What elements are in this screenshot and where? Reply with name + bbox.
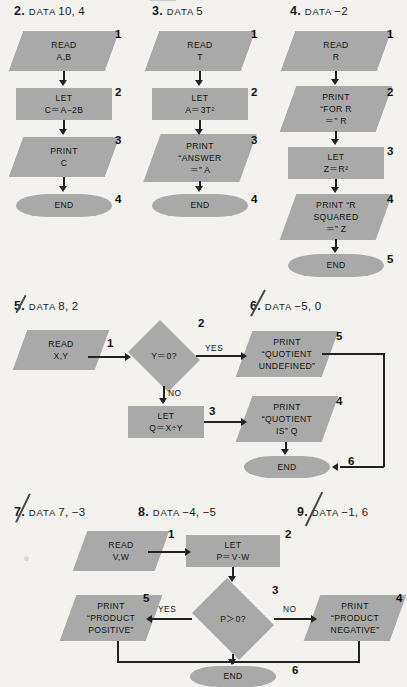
node-line: IS” Q (276, 425, 298, 437)
problem-keyword: DATA (25, 6, 59, 17)
chart-e-node-5-print-positive: PRINT “PRODUCT POSITIVE” (68, 595, 154, 641)
node-line: ＝” A (190, 164, 211, 176)
chart-e-label-yes: YES (158, 604, 176, 614)
chart-c-step-3: 3 (387, 145, 393, 157)
node-line: X,Y (54, 350, 69, 362)
node-line: Z＝R² (324, 163, 349, 175)
chart-d-node-5-print-undefined: PRINT “QUOTIENT UNDEFINED” (244, 331, 330, 377)
chart-e-arrow-end (228, 659, 236, 665)
chart-e-merge-right-horz (232, 661, 360, 663)
paper-smudge-left (24, 556, 29, 561)
chart-e-step-1: 1 (168, 528, 174, 540)
problem-value: 8, 2 (58, 300, 78, 312)
problem-keyword: DATA (25, 301, 59, 312)
chart-e-step-3: 3 (272, 584, 278, 596)
chart-e-merge-right-vert (358, 641, 360, 663)
chart-b-node-2-let: LET A＝3T² (152, 88, 248, 120)
node-line: PRINT (341, 600, 369, 612)
node-line: P＝V·W (216, 551, 249, 563)
chart-e-connector-3-4-no (274, 618, 314, 620)
node-line: C＝A−2B (45, 104, 84, 116)
chart-e-connector-1-2 (148, 551, 188, 553)
chart-b-node-4-end: END (152, 194, 248, 217)
problem-number: 9. (297, 505, 308, 519)
node-line: NEGATIVE” (331, 624, 380, 636)
problem-header-2: 2.DATA10, 4 (14, 4, 85, 18)
problem-value: 5 (196, 5, 203, 17)
chart-d-step-4: 4 (336, 395, 342, 407)
chart-d-node-3-let: LET Q＝X÷Y (128, 406, 204, 438)
chart-e-node-6-end: END (190, 666, 276, 687)
chart-e-connector-3-5-yes (152, 618, 192, 620)
chart-d-step-1: 1 (107, 337, 113, 349)
node-line: A,B (57, 51, 72, 63)
chart-d-node-4-print-quotient: PRINT “QUOTIENT IS” Q (244, 396, 330, 442)
chart-e-merge-left-horz (117, 661, 233, 663)
chart-e-label-no: NO (283, 604, 297, 614)
chart-e-node-4-print-negative: PRINT “PRODUCT NEGATIVE” (312, 595, 398, 641)
problem-number: 8. (138, 505, 149, 519)
chart-b-arrow-2-3 (195, 129, 203, 135)
chart-e-step-5: 5 (143, 592, 149, 604)
problem-value: −4, −5 (182, 506, 216, 518)
node-line: Y＝0? (151, 350, 177, 362)
problem-keyword: DATA (25, 507, 59, 518)
node-line: LET (192, 92, 209, 104)
node-line: READ (108, 539, 133, 551)
node-line: PRINT (322, 91, 350, 103)
chart-d-arrow-2-3 (159, 398, 167, 404)
node-line: READ (187, 39, 212, 51)
chart-c-arrow-1-2 (331, 79, 339, 85)
chart-d-node-2-decision: Y＝0? (124, 324, 204, 388)
problem-keyword: DATA (149, 507, 183, 518)
chart-e-arrow-2-3 (228, 576, 236, 582)
node-line: ＝” R (325, 115, 347, 127)
chart-a-node-4-end: END (16, 194, 112, 217)
chart-d-label-no: NO (168, 388, 182, 398)
node-line: END (54, 199, 73, 211)
problem-keyword: DATA (301, 6, 335, 17)
node-line: END (190, 199, 209, 211)
node-line: ＝” Z (326, 223, 347, 235)
node-line: LET (328, 151, 345, 163)
chart-a-arrow-1-2 (59, 80, 67, 86)
chart-b-step-1: 1 (251, 28, 257, 40)
chart-a-step-4: 4 (115, 193, 121, 205)
chart-c-arrow-3-4 (331, 187, 339, 193)
chart-b-node-1-read: READ T (152, 31, 248, 71)
chart-e-arrow-1-2 (185, 548, 191, 556)
chart-b-step-4: 4 (251, 193, 257, 205)
chart-c-step-4: 4 (387, 193, 393, 205)
node-line: LET (56, 92, 73, 104)
problem-number: 2. (14, 4, 25, 18)
node-line: END (326, 259, 345, 271)
chart-d-step-6: 6 (348, 455, 354, 467)
chart-e-merge-left-vert (117, 641, 119, 663)
problem-header-4: 4.DATA−2 (290, 4, 348, 18)
chart-d-step-5: 5 (336, 330, 342, 342)
node-line: SQUARED (314, 211, 359, 223)
chart-e-node-3-decision: P＞0? (186, 584, 280, 654)
node-line: R (333, 51, 340, 63)
chart-d-arrow-1-2 (125, 353, 131, 361)
node-line: C (61, 157, 68, 169)
chart-c-node-2-print: PRINT “FOR R ＝” R (288, 86, 384, 132)
node-line: “PRODUCT (87, 612, 135, 624)
node-line: PRINT (186, 140, 214, 152)
chart-d-connector-3-4 (204, 421, 244, 423)
chart-d-node-1-read: READ X,Y (20, 330, 102, 370)
node-line: READ (48, 338, 73, 350)
chart-d-connector-2-5-yes (196, 355, 244, 357)
problem-header-8: 8.DATA−4, −5 (138, 505, 216, 519)
chart-e-arrow-3-4 (311, 615, 317, 623)
chart-a-node-2-let: LET C＝A−2B (16, 88, 112, 120)
problem-keyword: DATA (261, 301, 295, 312)
node-line: PRINT (273, 336, 301, 348)
node-line: PRINT (273, 401, 301, 413)
chart-b-arrow-1-2 (195, 80, 203, 86)
node-line: END (223, 670, 242, 682)
chart-a-node-1-read: READ A,B (16, 31, 112, 71)
chart-e-step-2: 2 (285, 528, 291, 540)
node-line: PRINT (50, 145, 78, 157)
chart-d-step-2: 2 (198, 317, 204, 329)
